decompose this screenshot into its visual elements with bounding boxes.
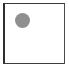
screenshot-root: Square outlined box with one gray filled… — [0, 0, 69, 69]
dot-marker-icon[interactable] — [15, 13, 30, 28]
bounding-box[interactable] — [3, 3, 65, 64]
alt-text: Square outlined box with one gray filled… — [0, 0, 1, 1]
